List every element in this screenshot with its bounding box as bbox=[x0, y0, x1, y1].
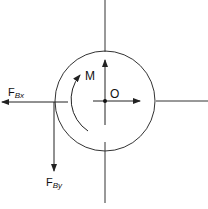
fbx-label: FBx bbox=[8, 86, 25, 100]
origin-point bbox=[103, 99, 107, 103]
moment-arc bbox=[71, 75, 88, 131]
moment-label: M bbox=[85, 69, 95, 83]
free-body-diagram: M O FBx FBy bbox=[0, 0, 208, 209]
origin-label: O bbox=[110, 87, 119, 101]
fby-label: FBy bbox=[46, 176, 63, 190]
fby-label-sub: By bbox=[53, 181, 63, 190]
fbx-label-sub: Bx bbox=[15, 91, 25, 100]
